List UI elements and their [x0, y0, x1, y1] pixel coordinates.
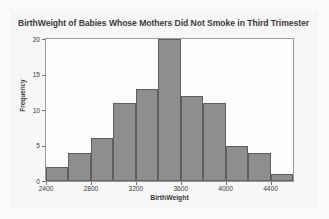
x-tick-label: 2800 — [76, 185, 106, 193]
histogram-bars — [46, 39, 293, 181]
x-tick-label: 3200 — [121, 185, 151, 193]
histogram-bar — [203, 103, 225, 181]
y-tick-label: 5 — [24, 142, 40, 149]
x-tick-label: 2400 — [31, 185, 61, 193]
histogram-bar — [181, 96, 203, 181]
y-tick-mark — [42, 75, 45, 76]
histogram-bar — [91, 138, 113, 181]
y-tick-mark — [42, 39, 45, 40]
x-tick-mark — [271, 182, 272, 185]
x-axis-label: BirthWeight — [45, 194, 294, 201]
x-tick-mark — [136, 182, 137, 185]
histogram-bar — [226, 146, 248, 182]
x-tick-label: 4000 — [211, 185, 241, 193]
histogram-bar — [68, 153, 90, 181]
x-tick-mark — [226, 182, 227, 185]
y-tick-label: 20 — [24, 36, 40, 43]
histogram-bar — [136, 89, 158, 181]
y-tick-mark — [42, 110, 45, 111]
x-tick-mark — [91, 182, 92, 185]
x-tick-mark — [46, 182, 47, 185]
y-tick-label: 0 — [24, 178, 40, 185]
chart-title: BirthWeight of Babies Whose Mothers Did … — [18, 16, 318, 30]
x-tick-label: 4400 — [256, 185, 286, 193]
histogram-bar — [113, 103, 135, 181]
x-tick-label: 3600 — [166, 185, 196, 193]
histogram-bar — [158, 39, 180, 181]
y-tick-mark — [42, 181, 45, 182]
y-tick-label: 10 — [24, 107, 40, 114]
y-tick-mark — [42, 146, 45, 147]
figure-canvas: BirthWeight of Babies Whose Mothers Did … — [0, 0, 329, 219]
histogram-bar — [248, 153, 270, 181]
histogram-bar — [46, 167, 68, 181]
x-tick-mark — [181, 182, 182, 185]
y-tick-label: 15 — [24, 71, 40, 78]
histogram-bar — [271, 174, 293, 181]
